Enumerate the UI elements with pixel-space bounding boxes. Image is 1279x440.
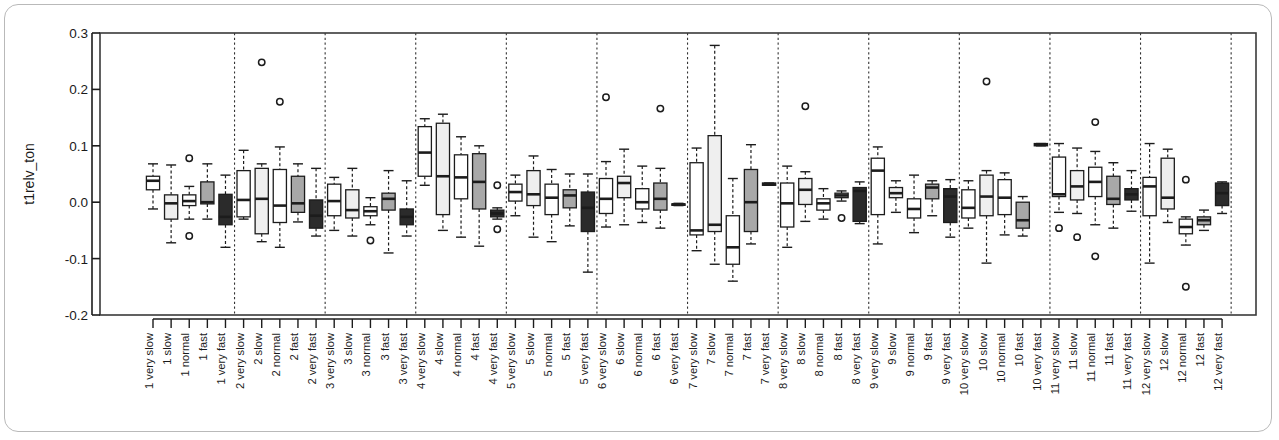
x-tick-label: 10 slow: [977, 332, 989, 371]
boxplot-item[interactable]: [1143, 144, 1156, 264]
boxplot-item[interactable]: [1034, 144, 1047, 146]
boxplot-item[interactable]: [436, 114, 449, 230]
boxplot-item[interactable]: [328, 177, 341, 230]
x-tick-label: 12 very fast: [1212, 332, 1224, 391]
outlier-point: [1056, 225, 1062, 231]
outlier-point: [494, 182, 500, 188]
boxplot-item[interactable]: [817, 189, 830, 219]
boxplot-item[interactable]: [1071, 148, 1084, 240]
x-tick-label: 6 fast: [650, 332, 662, 360]
boxplot-item[interactable]: [146, 164, 159, 209]
boxplot-item[interactable]: [1179, 176, 1192, 290]
x-tick-label: 3 fast: [379, 332, 391, 360]
boxplot-item[interactable]: [871, 147, 884, 244]
boxplot-item[interactable]: [1161, 149, 1174, 222]
x-tick-label: 9 fast: [922, 332, 934, 360]
boxplot-item[interactable]: [309, 168, 322, 236]
boxplot-item[interactable]: [889, 181, 902, 213]
box-body: [871, 158, 884, 214]
boxplot-item[interactable]: [944, 180, 957, 238]
box-body: [726, 216, 739, 265]
boxplot-item[interactable]: [1016, 197, 1029, 236]
boxplot-item[interactable]: [599, 94, 612, 227]
outlier-point: [259, 59, 265, 65]
x-tick-label: 8 slow: [795, 332, 807, 365]
box-body: [690, 163, 703, 235]
x-tick-label: 5 very slow: [505, 332, 517, 389]
boxplot-item[interactable]: [581, 174, 594, 272]
box-body: [599, 179, 612, 214]
boxplot-item[interactable]: [165, 165, 178, 243]
boxplot-item[interactable]: [527, 156, 540, 237]
outlier-point: [186, 233, 192, 239]
boxplot-item[interactable]: [998, 173, 1011, 235]
boxplot-item[interactable]: [726, 179, 739, 282]
boxplot-item[interactable]: [636, 166, 649, 222]
box-body: [781, 183, 794, 227]
boxplot-item[interactable]: [1215, 182, 1228, 214]
boxplot-item[interactable]: [654, 105, 667, 228]
boxplot-item[interactable]: [853, 182, 866, 224]
x-tick-label: 2 very slow: [234, 332, 246, 389]
boxplot-item[interactable]: [545, 169, 558, 241]
boxplot-item[interactable]: [201, 164, 214, 219]
boxplot-item[interactable]: [183, 155, 196, 239]
boxplot-item[interactable]: [563, 174, 576, 226]
boxplot-item[interactable]: [1052, 144, 1065, 232]
boxplot-item[interactable]: [762, 183, 775, 185]
boxplot-item[interactable]: [1197, 210, 1210, 230]
box-body: [219, 194, 232, 224]
boxplot-item[interactable]: [454, 137, 467, 237]
boxplot-item[interactable]: [708, 45, 721, 264]
boxplot-item[interactable]: [291, 164, 304, 222]
x-tick-label: 2 fast: [288, 332, 300, 360]
boxplot-item[interactable]: [1089, 119, 1102, 260]
x-tick-label: 7 very slow: [687, 332, 699, 389]
x-tick-label: 4 slow: [433, 332, 445, 365]
box-body: [382, 193, 395, 210]
boxplot-item[interactable]: [962, 181, 975, 228]
boxplot-item[interactable]: [237, 150, 250, 219]
boxplot-item[interactable]: [672, 203, 685, 205]
y-tick-label: -0.1: [65, 252, 88, 267]
boxplot-item[interactable]: [907, 175, 920, 233]
boxplot-item[interactable]: [219, 175, 232, 247]
boxplot-item[interactable]: [690, 148, 703, 251]
x-tick-label: 5 very fast: [578, 332, 590, 384]
x-tick-label: 5 normal: [542, 333, 554, 377]
box-body: [744, 169, 757, 231]
x-tick-label: 3 slow: [342, 332, 354, 365]
boxplot-item[interactable]: [400, 181, 413, 236]
boxplot-item[interactable]: [255, 59, 268, 242]
boxplot-item[interactable]: [364, 198, 377, 244]
boxplot-item[interactable]: [273, 99, 286, 248]
boxplot-item[interactable]: [491, 182, 504, 232]
boxplot-item[interactable]: [509, 175, 522, 216]
boxplot-item[interactable]: [781, 166, 794, 247]
x-tick-label: 11 very fast: [1121, 332, 1133, 390]
boxplot-item[interactable]: [418, 119, 431, 186]
y-tick-label: 0.2: [69, 82, 88, 97]
box-body: [636, 189, 649, 209]
x-tick-label: 8 very fast: [850, 332, 862, 384]
boxplot-item[interactable]: [835, 191, 848, 221]
boxplot-item[interactable]: [346, 168, 359, 236]
boxplot-item[interactable]: [382, 171, 395, 253]
boxplot-item[interactable]: [1107, 163, 1120, 228]
box-body: [291, 176, 304, 212]
boxplot-item[interactable]: [799, 103, 812, 221]
boxplot-item[interactable]: [980, 78, 993, 263]
x-tick-label: 8 normal: [813, 333, 825, 377]
x-tick-label: 8 very slow: [777, 332, 789, 389]
x-tick-label: 3 very slow: [324, 332, 336, 389]
x-tick-label: 2 normal: [270, 333, 282, 377]
box-body: [309, 200, 322, 228]
x-tick-label: 1 normal: [179, 333, 191, 377]
boxplot-item[interactable]: [473, 146, 486, 246]
boxplot-item[interactable]: [1125, 171, 1138, 212]
boxplot-item[interactable]: [926, 181, 939, 216]
boxplot-item[interactable]: [744, 145, 757, 244]
x-tick-label: 8 fast: [832, 332, 844, 360]
boxplot-item[interactable]: [618, 149, 631, 225]
box-body: [1161, 158, 1174, 209]
